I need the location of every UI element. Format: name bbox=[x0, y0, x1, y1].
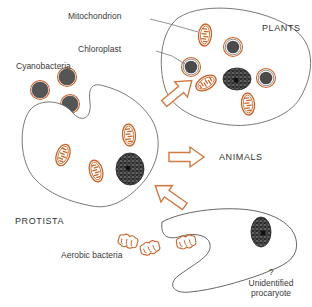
question-mark: ? bbox=[236, 268, 306, 277]
aerobic-bacteria-group bbox=[117, 232, 197, 256]
plant-chloroplast bbox=[182, 58, 201, 77]
plant-chloroplast bbox=[224, 38, 243, 57]
unidentified-procaryote-label: ? Unidentified procaryote bbox=[236, 268, 306, 298]
unidentified-line: Unidentified bbox=[236, 279, 306, 288]
protista-label: PROTISTA bbox=[15, 217, 64, 226]
mitochondrion-label: Mitochondrion bbox=[68, 12, 121, 21]
cyanobacteria-label: Cyanobacteria bbox=[16, 62, 71, 71]
arrow-from-procaryote bbox=[150, 177, 191, 214]
protista-cell bbox=[22, 85, 158, 207]
plants-label: PLANTS bbox=[262, 24, 301, 33]
arrow-to-animals bbox=[169, 147, 204, 167]
endosymbiosis-diagram: Mitochondrion Chloroplast Cyanobacteria … bbox=[0, 0, 312, 307]
procaryote-line: procaryote bbox=[236, 289, 306, 298]
aerobic-bacteria-label: Aerobic bacteria bbox=[61, 251, 122, 260]
animals-label: ANIMALS bbox=[219, 153, 263, 162]
plant-chloroplast bbox=[257, 69, 276, 88]
chloroplast-label: Chloroplast bbox=[78, 45, 121, 54]
